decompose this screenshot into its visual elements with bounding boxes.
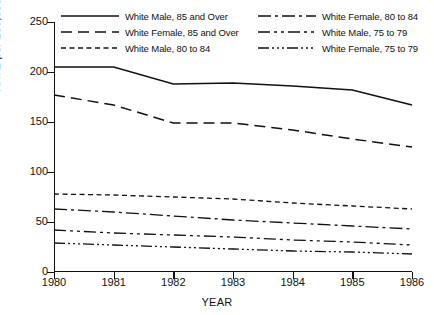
y-tick-label-200: 200 bbox=[20, 65, 48, 77]
y-tick-250 bbox=[47, 22, 54, 23]
x-tick-label-1986: 1986 bbox=[400, 276, 424, 288]
x-tick-label-1981: 1981 bbox=[101, 276, 125, 288]
y-axis-title: RATE per 100,000 bbox=[0, 0, 2, 92]
data-series-group bbox=[54, 22, 412, 272]
legend-item-label: White Male, 85 and Over bbox=[125, 11, 228, 22]
x-tick-label-1980: 1980 bbox=[42, 276, 66, 288]
chart-figure: White Male, 85 and OverWhite Female, 85 … bbox=[0, 0, 434, 315]
legend-line-sample-icon bbox=[60, 11, 120, 21]
y-axis-tick-labels: 050100150200250 bbox=[20, 22, 48, 272]
y-tick-label-150: 150 bbox=[20, 115, 48, 127]
y-tick-50 bbox=[47, 222, 54, 223]
x-tick-label-1983: 1983 bbox=[221, 276, 245, 288]
legend-line-sample-icon bbox=[257, 11, 317, 21]
y-tick-100 bbox=[47, 172, 54, 173]
y-tick-150 bbox=[47, 122, 54, 123]
series-line-3 bbox=[54, 209, 412, 229]
y-tick-0 bbox=[47, 272, 54, 273]
x-tick-label-1982: 1982 bbox=[161, 276, 185, 288]
x-axis-tick-labels: 1980198119821983198419851986 bbox=[54, 276, 412, 290]
series-line-0 bbox=[54, 67, 412, 105]
y-tick-label-100: 100 bbox=[20, 165, 48, 177]
plot-area bbox=[54, 22, 412, 272]
series-line-5 bbox=[54, 243, 412, 254]
y-tick-label-250: 250 bbox=[20, 15, 48, 27]
series-line-2 bbox=[54, 194, 412, 209]
y-tick-200 bbox=[47, 72, 54, 73]
x-tick-label-1984: 1984 bbox=[280, 276, 304, 288]
x-axis-title: YEAR bbox=[0, 296, 434, 308]
series-line-4 bbox=[54, 230, 412, 245]
x-tick-label-1985: 1985 bbox=[340, 276, 364, 288]
legend-item-label: White Female, 80 to 84 bbox=[322, 11, 418, 22]
series-line-1 bbox=[54, 95, 412, 147]
y-tick-label-50: 50 bbox=[20, 215, 48, 227]
